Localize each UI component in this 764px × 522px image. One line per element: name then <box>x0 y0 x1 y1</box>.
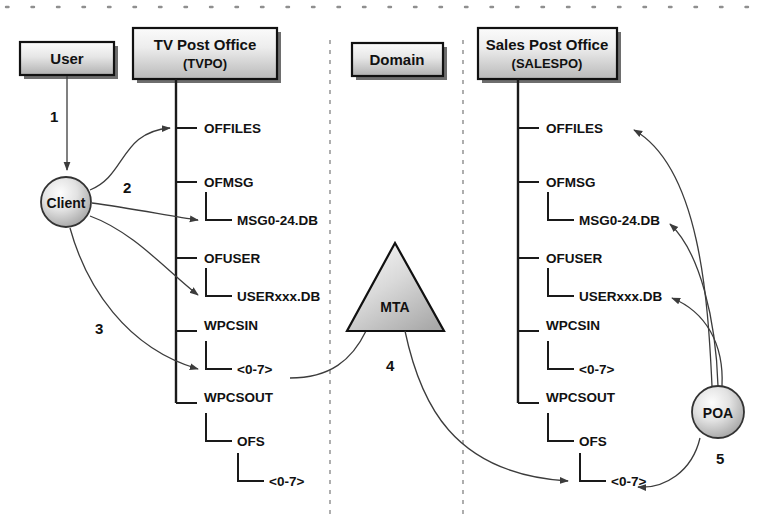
tvpo-sublabel: (TVPO) <box>183 56 227 71</box>
tvpo-item-ofs: OFS <box>237 434 265 449</box>
tvpo-item-offiles: OFFILES <box>204 121 261 136</box>
step-label-4: 4 <box>386 357 395 374</box>
tvpo-item-ofuser: OFUSER <box>204 251 261 266</box>
node-client[interactable]: Client <box>41 177 91 227</box>
salespo-item-wpcsin-07: <0-7> <box>579 362 614 377</box>
salespo-item-userdb: USERxxx.DB <box>579 289 663 304</box>
flow-arrow-3-client-to-wpcsin <box>70 228 198 369</box>
tvpo-item-wpcsout: WPCSOUT <box>204 390 274 405</box>
tvpo-item-userdb: USERxxx.DB <box>237 289 321 304</box>
flow-arrow-poa-to-offiles <box>634 130 712 386</box>
salespo-elbow-ofs <box>548 413 574 441</box>
salespo-item-ofmsg: OFMSG <box>546 175 596 190</box>
salespo-elbow-ofs-07 <box>580 453 606 481</box>
step-label-1: 1 <box>50 108 58 125</box>
step-label-5: 5 <box>716 450 724 467</box>
user-label: User <box>50 50 84 67</box>
salespo-item-ofuser: OFUSER <box>546 251 603 266</box>
node-poa[interactable]: POA <box>692 386 744 438</box>
poa-label: POA <box>703 405 733 421</box>
flow-arrow-5-salespo-to-poa <box>638 438 700 487</box>
tvpo-item-msgdb: MSG0-24.DB <box>237 213 318 228</box>
node-user[interactable]: User <box>20 42 118 79</box>
step-label-2: 2 <box>123 179 131 196</box>
salespo-item-wpcsout: WPCSOUT <box>546 390 616 405</box>
step-label-3: 3 <box>95 320 103 337</box>
flow-arrow-tvpo-to-mta <box>290 331 366 378</box>
flow-arrow-4-mta-to-salespo <box>405 331 568 481</box>
tvpo-elbow-userdb <box>206 268 232 296</box>
tvpo-elbow-wpcsin-07 <box>206 341 232 369</box>
salespo-elbow-msgdb <box>548 192 574 220</box>
node-mta[interactable]: MTA <box>347 243 444 331</box>
node-domain[interactable]: Domain <box>352 43 447 80</box>
tvpo-item-ofmsg: OFMSG <box>204 175 254 190</box>
tvpo-label: TV Post Office <box>154 36 257 53</box>
salespo-label: Sales Post Office <box>486 36 609 53</box>
client-label: Client <box>47 195 86 211</box>
salespo-sublabel: (SALESPO) <box>512 56 583 71</box>
diagram-page: User TV Post Office (TVPO) Domain Sales … <box>0 0 764 522</box>
salespo-directory-tree: OFFILES OFMSG MSG0-24.DB OFUSER USERxxx.… <box>518 79 663 489</box>
node-tvpo[interactable]: TV Post Office (TVPO) <box>133 28 281 83</box>
tvpo-item-ofs-07: <0-7> <box>269 474 304 489</box>
mta-triangle <box>347 243 444 331</box>
flow-arrow-2-client-to-userdb <box>90 216 198 295</box>
tvpo-item-wpcsin-07: <0-7> <box>237 362 272 377</box>
salespo-item-msgdb: MSG0-24.DB <box>579 213 660 228</box>
mta-label: MTA <box>380 299 409 315</box>
tvpo-elbow-msgdb <box>206 192 232 220</box>
domain-label: Domain <box>369 51 424 68</box>
tvpo-directory-tree: OFFILES OFMSG MSG0-24.DB OFUSER USERxxx.… <box>176 79 321 489</box>
tvpo-elbow-ofs <box>206 413 232 441</box>
node-salespo[interactable]: Sales Post Office (SALESPO) <box>478 28 621 83</box>
tvpo-elbow-ofs-07 <box>238 453 264 481</box>
tvpo-item-wpcsin: WPCSIN <box>204 318 258 333</box>
salespo-elbow-wpcsin-07 <box>548 341 574 369</box>
salespo-item-ofs: OFS <box>579 434 607 449</box>
salespo-item-wpcsin: WPCSIN <box>546 318 600 333</box>
message-flow-diagram: User TV Post Office (TVPO) Domain Sales … <box>0 0 764 522</box>
flow-arrow-2-client-to-msgdb <box>92 203 198 220</box>
salespo-elbow-userdb <box>548 268 574 296</box>
salespo-item-offiles: OFFILES <box>546 121 603 136</box>
